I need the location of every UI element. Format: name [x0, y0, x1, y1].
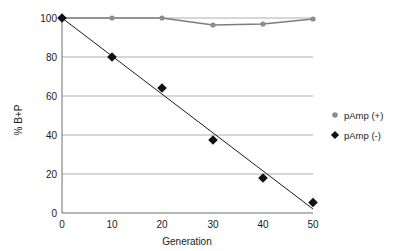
data-point	[109, 15, 114, 20]
y-tick-20: 20	[46, 169, 58, 180]
legend-label-pamp-plus: pAmp (+)	[344, 110, 383, 121]
y-axis-title: % B+P	[13, 104, 24, 135]
x-axis-title: Generation	[162, 236, 211, 247]
y-tick-60: 60	[46, 91, 58, 102]
data-point	[310, 16, 315, 21]
legend-marker-circle-icon	[332, 112, 338, 118]
data-point	[210, 22, 215, 27]
y-tick-40: 40	[46, 130, 58, 141]
y-tick-0: 0	[51, 208, 57, 219]
x-tick-50: 50	[307, 219, 319, 230]
x-tick-10: 10	[106, 219, 118, 230]
legend-label-pamp-minus: pAmp (-)	[344, 130, 381, 141]
chart-canvas: 100 80 60 40 20 0 0 10 20 30 40 50 Gener…	[0, 0, 401, 251]
y-tick-100: 100	[40, 13, 57, 24]
data-point	[159, 15, 164, 20]
x-tick-30: 30	[207, 219, 219, 230]
x-tick-40: 40	[257, 219, 269, 230]
chart-figure: 100 80 60 40 20 0 0 10 20 30 40 50 Gener…	[0, 0, 401, 251]
x-tick-0: 0	[59, 219, 65, 230]
data-point	[260, 21, 265, 26]
y-tick-80: 80	[46, 52, 58, 63]
x-tick-20: 20	[156, 219, 168, 230]
